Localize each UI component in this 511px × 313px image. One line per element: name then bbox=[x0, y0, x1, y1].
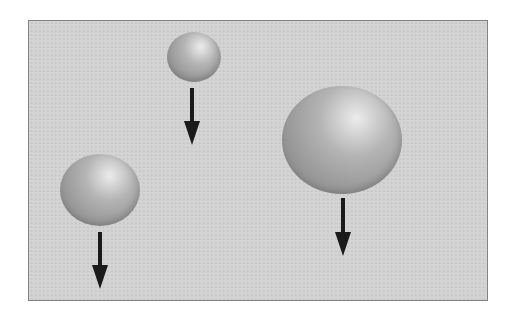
down-arrow-icon bbox=[184, 88, 200, 145]
medium-sphere bbox=[60, 154, 140, 226]
down-arrow-icon bbox=[335, 198, 351, 256]
large-sphere bbox=[282, 86, 402, 194]
down-arrow-icon bbox=[92, 232, 108, 289]
small-sphere bbox=[167, 32, 221, 82]
diagram-stage bbox=[0, 0, 511, 313]
